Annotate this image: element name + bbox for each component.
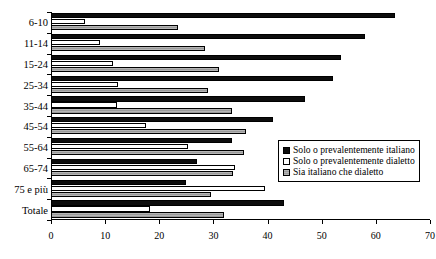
bar-dialetto [51,40,100,45]
bar-entrambi [51,150,244,155]
chart-row: 11-14 [51,33,430,54]
chart-row: 25-34 [51,74,430,95]
bar-italiano [51,76,333,81]
y-axis-category-label: 15-24 [2,58,48,69]
bar-dialetto [51,165,235,170]
x-axis-tick-label: 70 [425,231,435,241]
gray-square-icon [283,169,290,176]
bar-dialetto [51,61,113,66]
x-axis-tick-label: 20 [154,231,164,241]
chart-row: 35-44 [51,95,430,116]
bar-entrambi [51,129,246,134]
x-axis-tick-label: 60 [371,231,381,241]
bar-dialetto [51,102,117,107]
bar-italiano [51,159,197,164]
bar-entrambi [51,67,219,72]
legend-label-dialetto: Solo o prevalentemente dialetto [293,155,415,166]
chart-row: 45-54 [51,116,430,137]
y-axis-category-label: 75 e più [2,183,48,194]
chart-row: Totale [51,199,430,220]
bar-italiano [51,96,305,101]
y-axis-tick [47,220,51,221]
chart-legend: Solo o prevalentemente italiano Solo o p… [278,140,420,182]
bar-italiano [51,200,284,205]
bar-italiano [51,180,186,185]
x-axis-tick [51,220,52,224]
bar-entrambi [51,212,224,217]
x-axis-tick [268,220,269,224]
bar-entrambi [51,46,205,51]
bar-entrambi [51,108,232,113]
bar-dialetto [51,144,188,149]
bar-italiano [51,138,232,143]
legend-item-dialetto: Solo o prevalentemente dialetto [283,155,416,166]
white-square-icon [283,158,290,165]
x-axis-tick [213,220,214,224]
x-axis-tick [159,220,160,224]
y-axis-category-label: 35-44 [2,100,48,111]
x-axis-tick [105,220,106,224]
y-axis-category-label: 55-64 [2,142,48,153]
bar-dialetto [51,206,150,211]
legend-item-italiano: Solo o prevalentemente italiano [283,144,416,155]
y-axis-category-label: 25-34 [2,79,48,90]
y-axis-category-label: 65-74 [2,162,48,173]
legend-item-entrambi: Sia italiano che dialetto [283,166,416,177]
legend-label-entrambi: Sia italiano che dialetto [293,166,383,177]
bar-dialetto [51,19,85,24]
bar-chart: 010203040506070 6-1011-1415-2425-3435-44… [0,0,436,259]
bar-entrambi [51,88,208,93]
y-axis-category-label: Totale [2,204,48,215]
plot-area: 010203040506070 6-1011-1415-2425-3435-44… [51,12,430,220]
bar-italiano [51,34,365,39]
x-axis-tick [430,220,431,224]
chart-row: 6-10 [51,12,430,33]
chart-row: 15-24 [51,54,430,75]
y-axis-category-label: 11-14 [2,38,48,49]
x-axis-tick-label: 50 [317,231,327,241]
bar-dialetto [51,82,118,87]
x-axis-tick-label: 0 [49,231,54,241]
x-axis-tick-label: 40 [263,231,273,241]
x-axis-tick-label: 10 [100,231,110,241]
bar-italiano [51,13,395,18]
bar-entrambi [51,171,233,176]
bar-dialetto [51,123,146,128]
bar-italiano [51,55,341,60]
x-axis-tick [376,220,377,224]
bar-entrambi [51,192,211,197]
y-axis-category-label: 6-10 [2,17,48,28]
y-axis-category-label: 45-54 [2,121,48,132]
bar-italiano [51,117,273,122]
black-square-icon [283,147,290,154]
bar-dialetto [51,186,265,191]
legend-label-italiano: Solo o prevalentemente italiano [293,144,415,155]
x-axis-tick [322,220,323,224]
x-axis-tick-label: 30 [208,231,218,241]
bar-entrambi [51,25,178,30]
